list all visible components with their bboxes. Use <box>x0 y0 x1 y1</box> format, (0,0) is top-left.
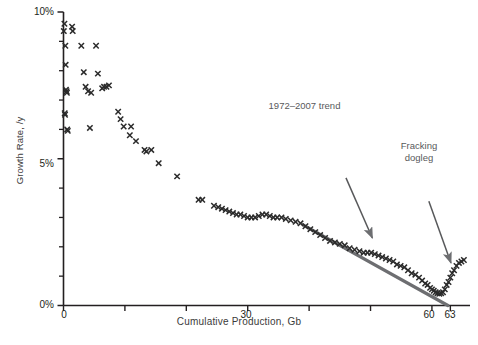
fracking-annotation-line1: Fracking <box>401 140 437 151</box>
y-axis-label: Growth Rate, /y <box>14 96 25 206</box>
fracking-dogleg-annotation-label: Fracking dogleg <box>386 140 452 163</box>
trend-annotation-label: 1972–2007 trend <box>252 100 357 112</box>
x-tick-label-0: 0 <box>49 309 79 320</box>
chart-figure: Growth Rate, /y Cumulative Production, G… <box>0 0 478 345</box>
y-tick-label-5: 5% <box>20 158 54 169</box>
fracking-annotation-line2: dogleg <box>405 152 434 163</box>
y-axis-ticks <box>58 12 64 306</box>
y-tick-label-10: 10% <box>20 6 54 17</box>
x-tick-label-63: 63 <box>435 309 465 320</box>
x-tick-label-30: 30 <box>231 309 261 320</box>
scatter-plot-canvas <box>0 0 478 345</box>
